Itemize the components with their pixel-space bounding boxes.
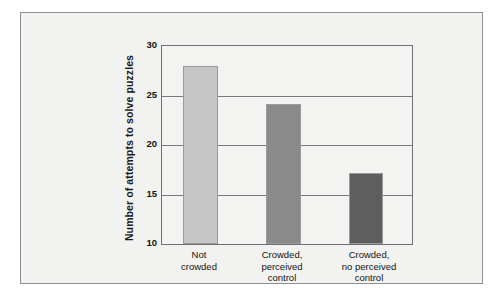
y-axis-tick-labels: 30 25 20 15 10 [133, 45, 157, 245]
y-tick-label: 10 [135, 238, 157, 248]
category-label-crowded-no-perceived-control: Crowded, no perceived control [315, 249, 423, 284]
bar-crowded-perceived-control [266, 104, 301, 244]
category-label-line: control [315, 272, 423, 284]
category-label-line: no perceived [315, 261, 423, 273]
y-tick-label: 20 [135, 139, 157, 149]
bar-crowded-no-perceived-control [349, 173, 383, 244]
x-axis-category-labels: Not crowded Crowded, perceived control C… [161, 249, 413, 295]
chart-figure: Number of attempts to solve puzzles 30 2… [20, 12, 483, 284]
bar-not-crowded [183, 66, 218, 244]
y-tick-label: 30 [135, 40, 157, 50]
y-tick-label: 15 [135, 189, 157, 199]
category-label-line: Crowded, [315, 249, 423, 261]
plot-area [161, 45, 413, 245]
y-tick-label: 25 [135, 90, 157, 100]
